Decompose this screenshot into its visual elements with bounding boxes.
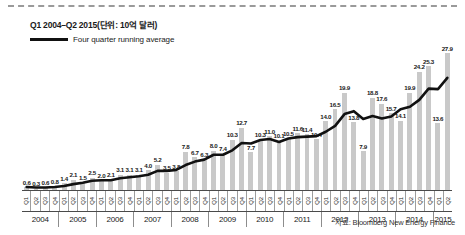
bar-cell: 3.1	[115, 48, 124, 190]
quarter-tick: Q3	[341, 191, 350, 211]
bar	[332, 109, 339, 190]
bar	[229, 140, 236, 190]
quarter-tick-label: Q2	[258, 197, 264, 205]
quarter-tick: Q4	[200, 191, 209, 211]
bar-value-label: 2.0	[98, 172, 106, 179]
bar	[61, 183, 68, 190]
quarter-tick-label: Q2	[220, 197, 226, 205]
bar	[126, 175, 133, 190]
bar-cell: 10.1	[274, 48, 283, 190]
bar-cell: 2.5	[87, 48, 96, 190]
quarter-tick-label: Q2	[145, 197, 151, 205]
quarter-tick-label: Q4	[201, 197, 207, 205]
quarter-tick-label: Q3	[342, 197, 348, 205]
quarter-tick: Q3	[228, 191, 237, 211]
quarter-tick-label: Q1	[23, 197, 29, 205]
quarter-tick: Q3	[191, 191, 200, 211]
quarter-tick-label: Q4	[164, 197, 170, 205]
bar	[388, 113, 395, 190]
quarter-tick-label: Q1	[248, 197, 254, 205]
bar-cell: 5.2	[153, 48, 162, 190]
quarter-tick: Q3	[41, 191, 50, 211]
quarter-tick: Q3	[378, 191, 387, 211]
bar-cell: 13.8	[349, 48, 358, 190]
quarter-tick: Q4	[50, 191, 59, 211]
bar-value-label: 3.8	[172, 163, 180, 170]
bar-value-label: 27.9	[442, 45, 453, 52]
bar-cell: 10.5	[284, 48, 293, 190]
quarter-tick-label: Q1	[323, 197, 329, 205]
bar-value-label: 0.6	[23, 179, 31, 186]
quarter-tick-label: Q2	[108, 197, 114, 205]
year-tick: 2011	[284, 212, 321, 227]
quarter-tick-label: Q2	[408, 197, 414, 205]
quarter-tick-label: Q3	[304, 197, 310, 205]
bar-cell: 4.0	[143, 48, 152, 190]
bar-cell: 0.6	[22, 48, 31, 190]
bar	[89, 178, 96, 190]
bar	[276, 141, 283, 190]
bar	[201, 159, 208, 190]
quarter-tick-label: Q1	[61, 197, 67, 205]
bar-cell: 3.1	[134, 48, 143, 190]
bar	[294, 133, 301, 190]
bar-cell: 0.8	[50, 48, 59, 190]
bar	[285, 139, 292, 190]
bar-cell: 27.9	[442, 48, 451, 190]
quarter-tick: Q1	[322, 191, 331, 211]
bar-cell: 7.8	[181, 48, 190, 190]
year-tick: 2008	[172, 212, 209, 227]
quarter-tick-label: Q4	[426, 197, 432, 205]
quarter-tick-label: Q3	[379, 197, 385, 205]
quarter-tick: Q2	[31, 191, 40, 211]
quarter-tick-label: Q1	[286, 197, 292, 205]
bar-value-label: 3.1	[135, 166, 143, 173]
bar-series: 0.60.30.60.81.42.11.52.52.02.13.13.13.14…	[22, 48, 452, 190]
quarter-tick: Q4	[88, 191, 97, 211]
quarter-tick: Q1	[22, 191, 31, 211]
quarter-tick-label: Q4	[276, 197, 282, 205]
bar	[191, 157, 198, 190]
quarter-tick: Q1	[247, 191, 256, 211]
bar-cell: 11.0	[265, 48, 274, 190]
quarter-tick: Q1	[60, 191, 69, 211]
source-note: 자료: Bloomberg New Energy Finance	[335, 216, 455, 227]
quarter-tick: Q2	[444, 191, 452, 211]
bar-cell: 3.5	[162, 48, 171, 190]
quarter-tick: Q2	[256, 191, 265, 211]
bar-cell: 18.8	[368, 48, 377, 190]
bar	[434, 123, 441, 190]
bar-cell: 2.0	[97, 48, 106, 190]
quarter-tick-label: Q4	[314, 197, 320, 205]
bar-cell: 0.3	[31, 48, 40, 190]
bar	[117, 175, 124, 190]
chart-legend: Four quarter running average	[30, 35, 174, 44]
quarter-tick-label: Q1	[361, 197, 367, 205]
bar	[416, 72, 423, 190]
bar-cell: 11.6	[293, 48, 302, 190]
quarter-tick: Q4	[275, 191, 284, 211]
year-tick: 2004	[22, 212, 59, 227]
bar	[154, 165, 161, 190]
bar-value-label: 4.0	[144, 162, 152, 169]
year-tick: 2010	[247, 212, 284, 227]
quarter-tick-label: Q3	[117, 197, 123, 205]
quarter-tick: Q2	[294, 191, 303, 211]
bar	[378, 104, 385, 190]
bar	[107, 180, 114, 190]
quarter-tick: Q2	[69, 191, 78, 211]
bar-cell: 10.3	[256, 48, 265, 190]
bar	[182, 152, 189, 190]
bar	[135, 175, 142, 190]
quarter-tick: Q2	[331, 191, 340, 211]
bar	[210, 151, 217, 190]
bar-value-label: 2.5	[88, 169, 96, 176]
chart-title: Q1 2004–Q2 2015(단위: 10억 달러)	[30, 18, 157, 30]
bar-cell: 7.9	[358, 48, 367, 190]
bar-cell: 8.0	[209, 48, 218, 190]
bar-value-label: 3.5	[163, 164, 171, 171]
quarter-tick-label: Q4	[239, 197, 245, 205]
bar-cell: 1.5	[78, 48, 87, 190]
quarter-tick-label: Q2	[445, 197, 451, 205]
bar	[322, 121, 329, 190]
